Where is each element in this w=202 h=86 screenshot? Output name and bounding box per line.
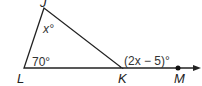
label-m: M bbox=[174, 72, 185, 85]
point-m-dot bbox=[176, 66, 181, 71]
arrow-head-icon bbox=[193, 65, 201, 71]
angle-j-measure: x° bbox=[43, 23, 54, 35]
triangle-diagram bbox=[0, 0, 202, 86]
label-k: K bbox=[118, 72, 127, 85]
label-j: J bbox=[40, 0, 47, 9]
label-l: L bbox=[17, 72, 24, 85]
angle-l-measure: 70° bbox=[32, 56, 50, 68]
angle-k-exterior-measure: (2x − 5)° bbox=[124, 55, 170, 67]
